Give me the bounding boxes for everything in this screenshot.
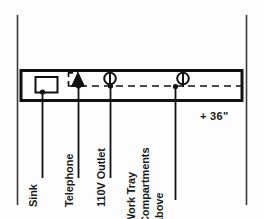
elevation-drawing-canvas: + 36" Sink Telephone 110V Outlet Work Tr… [0, 0, 264, 219]
outlet-110v-leader-dot [108, 83, 113, 88]
outlet-110v-label: 110V Outlet [95, 148, 107, 207]
sink-leader-dot [40, 89, 45, 94]
work-tray-compartments-leader-dot [173, 84, 178, 89]
mounting-height-dimension: + 36" [200, 110, 228, 122]
sink-symbol [36, 77, 58, 93]
telephone-leader-dot [76, 83, 81, 88]
work-tray-compartments-label-line3: above [153, 193, 165, 219]
work-tray-compartments-label-line1: Work Tray [125, 172, 137, 219]
work-tray-compartments-label-line2: Compartments [139, 148, 151, 219]
sink-label: Sink [27, 184, 39, 207]
telephone-label: Telephone [63, 154, 75, 207]
